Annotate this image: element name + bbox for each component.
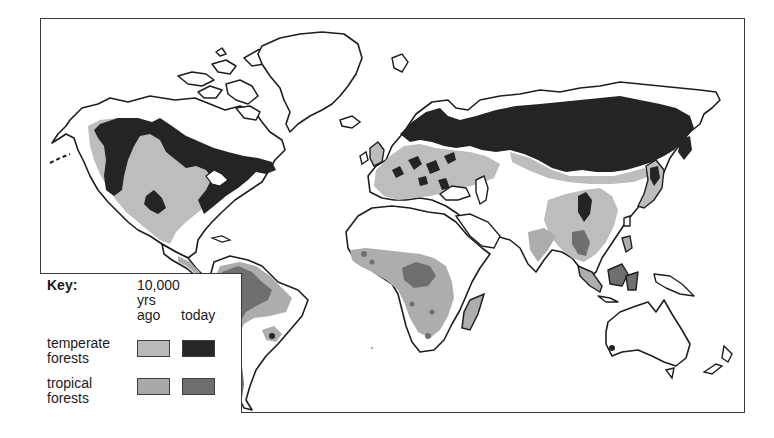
- map-legend: Key: 10,000 yrs ago today temperate fore…: [40, 273, 242, 413]
- caribbean: [212, 236, 230, 242]
- legend-col-ago-line1: 10,000: [137, 278, 197, 293]
- ireland: [360, 152, 368, 164]
- legend-col-ago-line2: yrs: [137, 293, 197, 308]
- swatch-tropical-10000-yrs-ago: [137, 378, 170, 395]
- tasmania: [666, 368, 674, 378]
- taiwan: [624, 216, 630, 226]
- legend-tropical-line1: tropical: [47, 376, 127, 391]
- aleutians: [50, 154, 70, 163]
- legend-tropical-line2: forests: [47, 391, 127, 406]
- new-zealand-north: [722, 346, 732, 362]
- legend-row-tropical: tropical forests: [47, 376, 127, 406]
- philippines: [622, 236, 632, 252]
- sulawesi: [626, 272, 638, 290]
- africa: [346, 206, 500, 352]
- legend-row-temperate: temperate forests: [47, 336, 127, 366]
- swatch-temperate-10000-yrs-ago: [137, 340, 170, 357]
- new-guinea: [654, 274, 694, 296]
- iceland: [340, 116, 360, 128]
- africa-tropical-ago: [350, 248, 454, 338]
- legend-title: Key:: [47, 277, 77, 293]
- australia: [606, 300, 732, 378]
- swatch-tropical-today: [182, 378, 215, 395]
- svalbard: [392, 54, 408, 72]
- australia-land: [606, 300, 690, 366]
- java: [598, 296, 618, 302]
- sa-dark-spot: [269, 333, 275, 339]
- north-america: [50, 96, 285, 284]
- legend-temperate-line1: temperate: [47, 336, 127, 351]
- greenland: [258, 32, 362, 132]
- great-britain: [370, 142, 384, 166]
- legend-temperate-line2: forests: [47, 351, 127, 366]
- legend-column-today: today: [181, 308, 215, 323]
- new-zealand-south: [704, 364, 722, 374]
- map-speck: [371, 347, 373, 349]
- swatch-temperate-today: [182, 340, 215, 357]
- borneo: [608, 264, 628, 286]
- australia-sw-forest: [609, 345, 615, 351]
